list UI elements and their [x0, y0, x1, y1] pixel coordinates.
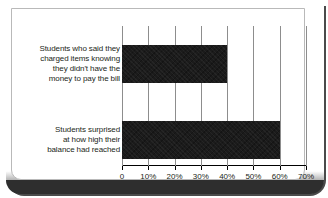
tick-10	[148, 166, 149, 170]
chart-screenshot: Students who said they charged items kno…	[0, 0, 328, 198]
tick-20	[175, 166, 176, 170]
category-labels: Students who said they charged items kno…	[24, 17, 120, 181]
plot-area	[122, 26, 306, 166]
category-label-charged-items: Students who said they charged items kno…	[39, 44, 120, 85]
tick-40	[227, 166, 228, 170]
x-axis-tick-labels: 010%20%30%40%50%60%70%	[122, 171, 306, 185]
x-axis-line	[122, 165, 306, 166]
tick-60	[280, 166, 281, 170]
x-tick-label-40: 40%	[219, 171, 235, 182]
chart-card: Students who said they charged items kno…	[11, 8, 305, 180]
x-tick-label-10: 10%	[140, 171, 156, 182]
x-tick-label-50: 50%	[245, 171, 261, 182]
tick-30	[201, 166, 202, 170]
x-tick-label-60: 60%	[272, 171, 288, 182]
category-label-balance-surprise: Students surprised at how high their bal…	[47, 125, 120, 156]
x-tick-label-0: 0	[120, 171, 124, 182]
tick-50	[253, 166, 254, 170]
bar-charged-items	[122, 45, 227, 83]
gridline-60	[280, 26, 281, 166]
x-tick-label-20: 20%	[167, 171, 183, 182]
x-tick-label-70: 70%	[298, 171, 314, 182]
tick-70	[306, 166, 307, 170]
bar-balance-surprise	[122, 121, 280, 159]
gridline-70	[306, 26, 307, 166]
tick-0	[122, 166, 123, 170]
x-tick-label-30: 30%	[193, 171, 209, 182]
